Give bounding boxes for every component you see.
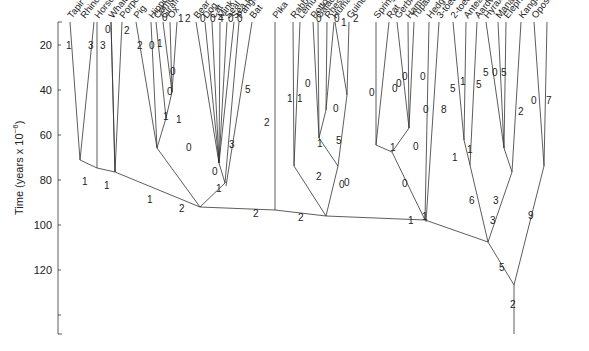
branch-length-label: 1 xyxy=(390,142,396,153)
y-axis-title: Time (years x 10−6) xyxy=(11,121,25,215)
branch-length-label: 3 xyxy=(88,40,94,51)
branch-length-label: 0 xyxy=(149,40,155,51)
branch-length-label: 7 xyxy=(546,95,552,106)
branch-length-label: 8 xyxy=(441,104,447,115)
branch-length-label: 3 xyxy=(493,195,499,206)
branch-length-label: 1 xyxy=(408,215,414,226)
branch-length-label: 2 xyxy=(185,13,191,24)
branch-length-label: 5 xyxy=(245,84,251,95)
branch-length-label: 2 xyxy=(316,171,322,182)
branch-length-label: 3 xyxy=(100,40,106,51)
branch-length-label: 1 xyxy=(452,152,458,163)
branch-length-label: 3 xyxy=(229,139,235,150)
tree-edges xyxy=(70,22,547,334)
branch-length-label: 0 xyxy=(237,13,243,24)
branch-length-label: 1 xyxy=(66,40,72,51)
leaf-labels: TapirRhinocerosHorseWhalePorpoisePigHipp… xyxy=(65,0,563,20)
branch-length-label: 0 xyxy=(162,12,168,23)
branch-length-label: 4 xyxy=(218,13,224,24)
branch-length-label: 2 xyxy=(179,203,185,214)
y-tick-100: 100 xyxy=(34,219,52,231)
branch-length-label: 0 xyxy=(167,86,173,97)
branch-length-label: 5 xyxy=(336,135,342,146)
branch-length-label: 5 xyxy=(499,262,505,273)
branch-length-label: 0 xyxy=(212,166,218,177)
branch-length-label: 0 xyxy=(423,104,429,115)
y-tick-120: 120 xyxy=(34,264,52,276)
branch-length-label: 5 xyxy=(483,67,489,78)
branch-length-label: 1 xyxy=(216,183,222,194)
branch-length-label: 0 xyxy=(413,141,419,152)
branch-length-label: 1 xyxy=(297,93,303,104)
branch-length-label: 0 xyxy=(333,103,339,114)
y-tick-20: 20 xyxy=(40,39,52,51)
branch-length-label: 0 xyxy=(531,95,537,106)
branch-length-label: 0 xyxy=(420,71,426,82)
branch-length-label: 1 xyxy=(178,13,184,24)
branch-length-label: 1 xyxy=(157,38,163,49)
branch-length-label: 1 xyxy=(341,17,347,28)
branch-length-label: 1 xyxy=(287,93,293,104)
branch-length-label: 9 xyxy=(528,210,534,221)
branch-length-label: 1 xyxy=(422,211,428,222)
y-axis: 20 40 60 80 100 120 Time (years x 10−6) xyxy=(11,22,62,334)
branch-length-label: 1 xyxy=(317,138,323,149)
branch-length-label: 1 xyxy=(176,114,182,125)
svg-text:Time (years x 10−6): Time (years x 10−6) xyxy=(11,121,25,215)
leaf-label: Pika xyxy=(270,0,290,20)
branch-length-label: 0 xyxy=(492,67,498,78)
branch-length-label: 0 xyxy=(402,178,408,189)
branch-length-label: 0 xyxy=(200,13,206,24)
y-tick-40: 40 xyxy=(40,84,52,96)
branch-length-label: 5 xyxy=(476,79,482,90)
branch-length-label: 2 xyxy=(264,117,270,128)
branch-length-label: 0 xyxy=(369,87,375,98)
branch-length-label: 0 xyxy=(170,66,176,77)
branch-length-label: 0 xyxy=(316,13,322,24)
branch-length-label: 2 xyxy=(518,106,524,117)
branch-length-label: 2 xyxy=(253,208,259,219)
branch-length-label: 1 xyxy=(104,180,110,191)
branch-length-label: 0 xyxy=(228,13,234,24)
branch-length-label: 1 xyxy=(82,176,88,187)
branch-length-label: 0 xyxy=(402,71,408,82)
branch-length-label: 5 xyxy=(501,67,507,78)
branch-length-label: 0 xyxy=(344,177,350,188)
branch-length-label: 6 xyxy=(469,195,475,206)
branch-length-label: 0 xyxy=(334,13,340,24)
branch-length-label: 0 xyxy=(210,13,216,24)
branch-length-label: 1 xyxy=(147,194,153,205)
branch-length-label: 2 xyxy=(124,25,130,36)
branch-length-label: 0 xyxy=(186,142,192,153)
branch-length-label: 2 xyxy=(137,40,143,51)
y-tick-60: 60 xyxy=(40,129,52,141)
y-tick-80: 80 xyxy=(40,174,52,186)
branch-length-label: 3 xyxy=(490,215,496,226)
branch-labels: 1330220101200400521100012000000851550520… xyxy=(66,12,552,310)
branch-length-label: 0 xyxy=(305,78,311,89)
branch-length-label: 0 xyxy=(105,24,111,35)
phylogenetic-tree-chart: 20 40 60 80 100 120 Time (years x 10−6) … xyxy=(0,0,589,351)
branch-length-label: 1 xyxy=(467,144,473,155)
branch-length-label: 1 xyxy=(163,111,169,122)
branch-length-label: 2 xyxy=(510,299,516,310)
branch-length-label: 2 xyxy=(298,212,304,223)
branch-length-label: 2 xyxy=(353,13,359,24)
branch-length-label: 5 xyxy=(450,83,456,94)
branch-length-label: 1 xyxy=(460,76,466,87)
